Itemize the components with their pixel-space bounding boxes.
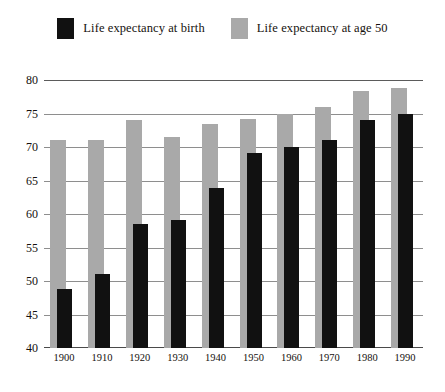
y-tick-label-60: 60 [10, 207, 38, 222]
bar-group-1990 [385, 80, 423, 348]
bar-group-1980 [347, 80, 385, 348]
y-axis-labels: 404550556065707580 [0, 80, 38, 348]
x-tick-label-1910: 1910 [91, 352, 112, 363]
bar-birth-1930 [171, 220, 186, 348]
bar-birth-1920 [133, 224, 148, 348]
legend-label-birth: Life expectancy at birth [83, 21, 204, 36]
x-tick-label-1950: 1950 [243, 352, 264, 363]
life-expectancy-bar-chart: Life expectancy at birth Life expectancy… [0, 0, 445, 392]
bar-birth-1990 [398, 114, 413, 349]
y-tick-label-45: 45 [10, 307, 38, 322]
x-tick-label-1980: 1980 [357, 352, 378, 363]
bar-groups [44, 80, 423, 348]
bar-group-1910 [82, 80, 120, 348]
bar-group-1920 [120, 80, 158, 348]
legend-entry-age50: Life expectancy at age 50 [231, 18, 388, 39]
y-tick-label-65: 65 [10, 173, 38, 188]
bar-birth-1960 [284, 147, 299, 348]
y-tick-label-80: 80 [10, 73, 38, 88]
bar-group-1900 [44, 80, 82, 348]
y-tick-label-40: 40 [10, 341, 38, 356]
bar-birth-1910 [95, 274, 110, 348]
bar-group-1930 [158, 80, 196, 348]
x-axis-labels: 1900191019201930194019501960197019801990 [44, 352, 423, 372]
bar-group-1940 [196, 80, 234, 348]
y-tick-label-70: 70 [10, 140, 38, 155]
x-tick-label-1940: 1940 [205, 352, 226, 363]
y-tick-label-75: 75 [10, 106, 38, 121]
x-tick-label-1930: 1930 [167, 352, 188, 363]
legend-entry-birth: Life expectancy at birth [57, 18, 204, 39]
bar-group-1960 [271, 80, 309, 348]
bar-birth-1940 [209, 188, 224, 348]
plot-area [44, 80, 423, 348]
bar-birth-1980 [360, 120, 375, 348]
chart-legend: Life expectancy at birth Life expectancy… [0, 18, 445, 39]
legend-swatch-birth [57, 18, 74, 39]
x-tick-label-1970: 1970 [319, 352, 340, 363]
bar-birth-1970 [322, 140, 337, 348]
x-tick-label-1900: 1900 [54, 352, 75, 363]
bar-group-1950 [234, 80, 272, 348]
x-tick-label-1960: 1960 [281, 352, 302, 363]
x-tick-label-1920: 1920 [129, 352, 150, 363]
bar-birth-1900 [57, 289, 72, 348]
legend-swatch-age50 [231, 18, 248, 39]
bar-birth-1950 [247, 153, 262, 348]
bar-group-1970 [309, 80, 347, 348]
y-tick-label-50: 50 [10, 274, 38, 289]
x-tick-label-1990: 1990 [395, 352, 416, 363]
y-tick-label-55: 55 [10, 240, 38, 255]
legend-label-age50: Life expectancy at age 50 [257, 21, 388, 36]
